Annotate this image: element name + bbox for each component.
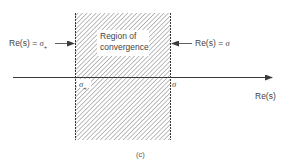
region-of-convergence-diagram <box>0 0 288 168</box>
right-boundary-symbol: σ <box>225 38 229 48</box>
region-label-line2: convergence <box>100 42 149 53</box>
left-boundary-prefix: Re(s) = <box>9 38 39 48</box>
region-of-convergence-label: Region of convergence <box>97 30 149 56</box>
left-boundary-label: Re(s) = σ+ <box>9 39 47 50</box>
right-boundary-prefix: Re(s) = <box>195 38 225 48</box>
tick-label-sigma-plus: σ+ <box>79 80 87 91</box>
tick-left-subscript: + <box>83 85 87 91</box>
figure-caption: (c) <box>136 150 145 159</box>
region-label-line1: Region of <box>100 31 149 42</box>
axis-label: Re(s) <box>255 92 276 101</box>
right-boundary-label: Re(s) = σ <box>195 39 230 48</box>
tick-label-sigma: σ <box>172 80 176 89</box>
tick-right-symbol: σ <box>172 79 176 89</box>
left-boundary-subscript: + <box>44 44 48 50</box>
